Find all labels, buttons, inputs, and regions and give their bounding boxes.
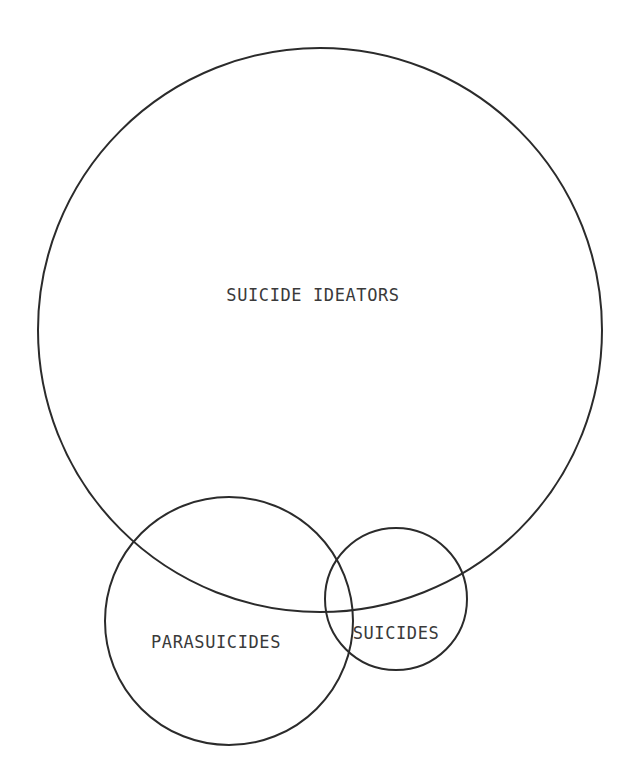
label-suicides: SUICIDES	[353, 623, 440, 643]
label-parasuicides: PARASUICIDES	[151, 632, 281, 652]
venn-diagram-figure: SUICIDE IDEATORS PARASUICIDES SUICIDES	[0, 0, 630, 780]
diagram-background	[0, 0, 630, 780]
label-suicide-ideators: SUICIDE IDEATORS	[226, 285, 399, 305]
venn-diagram-canvas: SUICIDE IDEATORS PARASUICIDES SUICIDES	[0, 0, 630, 780]
